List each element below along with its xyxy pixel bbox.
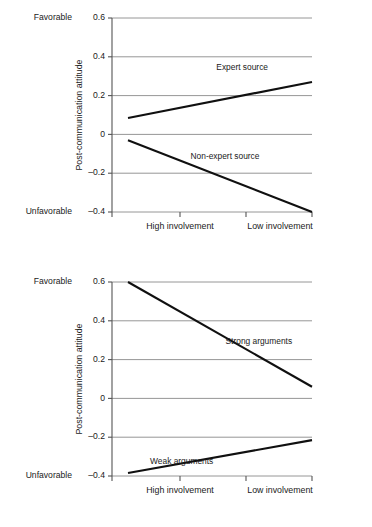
chart-bottom-svg: 0.60.40.20–0.2–0.4FavorableUnfavorablePo… bbox=[0, 264, 372, 527]
y-axis-high-anchor-label: Favorable bbox=[34, 276, 72, 286]
y-tick-label: 0.4 bbox=[93, 51, 105, 61]
y-tick-label: 0.2 bbox=[93, 354, 105, 364]
series-inline-label: Expert source bbox=[216, 62, 268, 72]
series-line bbox=[128, 282, 312, 387]
chart-panel-top: 0.60.40.20–0.2–0.4FavorableUnfavorablePo… bbox=[0, 0, 372, 264]
y-tick-label: –0.2 bbox=[88, 167, 105, 177]
x-category-label: Low involvement bbox=[247, 485, 313, 495]
y-tick-label: –0.2 bbox=[88, 431, 105, 441]
y-tick-label: 0.2 bbox=[93, 90, 105, 100]
two-panel-line-chart-figure: 0.60.40.20–0.2–0.4FavorableUnfavorablePo… bbox=[0, 0, 372, 527]
x-category-label: High involvement bbox=[146, 485, 214, 495]
y-tick-label: 0.6 bbox=[93, 12, 105, 22]
y-tick-label: –0.4 bbox=[88, 470, 105, 480]
series-inline-label: Weak arguments bbox=[150, 456, 213, 466]
y-tick-label: –0.4 bbox=[88, 206, 105, 216]
y-tick-label: 0 bbox=[100, 129, 105, 139]
y-tick-label: 0.6 bbox=[93, 276, 105, 286]
chart-top-svg: 0.60.40.20–0.2–0.4FavorableUnfavorablePo… bbox=[0, 0, 372, 264]
chart-panel-bottom: 0.60.40.20–0.2–0.4FavorableUnfavorablePo… bbox=[0, 264, 372, 527]
series-inline-label: Non-expert source bbox=[191, 151, 260, 161]
series-inline-label: Strong arguments bbox=[226, 336, 293, 346]
y-axis-title: Post-communication attitude bbox=[74, 323, 84, 434]
y-axis-low-anchor-label: Unfavorable bbox=[26, 206, 73, 216]
y-axis-title: Post-communication attitude bbox=[74, 59, 84, 170]
x-category-label: Low involvement bbox=[247, 221, 313, 231]
y-tick-label: 0.4 bbox=[93, 315, 105, 325]
y-axis-high-anchor-label: Favorable bbox=[34, 12, 72, 22]
y-axis-low-anchor-label: Unfavorable bbox=[26, 470, 73, 480]
series-line bbox=[128, 82, 312, 118]
y-tick-label: 0 bbox=[100, 393, 105, 403]
x-category-label: High involvement bbox=[146, 221, 214, 231]
